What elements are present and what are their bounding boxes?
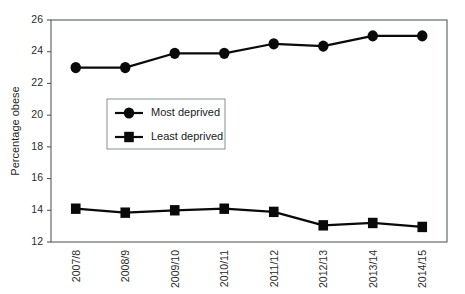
line-chart: 1214161820222426Percentage obese2007/820… <box>0 0 465 294</box>
data-point-marker <box>318 220 328 230</box>
data-point-marker <box>417 222 427 232</box>
chart-container: 1214161820222426Percentage obese2007/820… <box>0 0 465 294</box>
data-point-marker <box>71 204 81 214</box>
y-axis-tick-label: 24 <box>31 44 43 56</box>
x-axis-tick-label: 2013/14 <box>367 250 379 288</box>
data-point-marker <box>269 38 279 49</box>
square-marker-icon <box>124 132 134 142</box>
y-axis-tick-label: 12 <box>31 235 43 247</box>
x-axis-tick-label: 2009/10 <box>169 250 181 288</box>
y-axis-tick-label: 22 <box>31 76 43 88</box>
y-axis-title: Percentage obese <box>9 86 21 175</box>
x-axis-tick-label: 2014/15 <box>416 250 428 288</box>
y-axis-tick-label: 14 <box>31 203 43 215</box>
legend-label: Least deprived <box>151 130 223 142</box>
legend-label: Most deprived <box>151 106 220 118</box>
x-axis-tick-label: 2012/13 <box>317 250 329 288</box>
data-point-marker <box>417 30 427 41</box>
data-point-marker <box>219 204 229 214</box>
data-point-marker <box>71 62 81 73</box>
x-axis-tick-label: 2011/12 <box>268 250 280 287</box>
y-axis-tick-label: 20 <box>31 108 43 120</box>
data-point-marker <box>170 48 180 59</box>
x-axis-tick-label: 2010/11 <box>218 250 230 287</box>
y-axis-tick-label: 18 <box>31 140 43 152</box>
data-point-marker <box>219 48 229 59</box>
data-point-marker <box>120 207 130 217</box>
data-point-marker <box>120 62 130 73</box>
x-axis-tick-label: 2007/8 <box>70 250 82 282</box>
x-axis-tick-label: 2008/9 <box>119 250 131 282</box>
data-point-marker <box>318 41 328 52</box>
data-point-marker <box>269 207 279 217</box>
data-point-marker <box>170 205 180 215</box>
data-point-marker <box>368 30 378 41</box>
y-axis-tick-label: 26 <box>31 13 43 25</box>
circle-marker-icon <box>124 107 134 118</box>
data-point-marker <box>368 218 378 228</box>
y-axis-tick-label: 16 <box>31 171 43 183</box>
